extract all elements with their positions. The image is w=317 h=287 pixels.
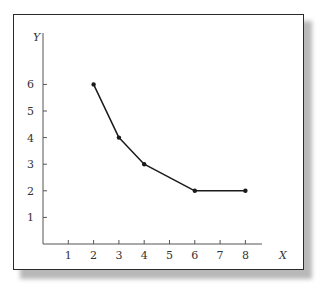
y-tick-label: 4 bbox=[27, 132, 34, 145]
x-tick-label: 6 bbox=[191, 249, 198, 262]
x-tick-label: 4 bbox=[141, 249, 148, 262]
x-tick-label: 3 bbox=[115, 249, 122, 262]
data-series bbox=[91, 82, 247, 193]
y-tick-label: 2 bbox=[27, 185, 34, 198]
y-tick-label: 3 bbox=[27, 158, 34, 171]
y-tick-label: 6 bbox=[27, 78, 34, 91]
data-point bbox=[243, 189, 247, 193]
data-point bbox=[91, 82, 95, 86]
axes bbox=[43, 33, 262, 244]
data-point bbox=[193, 189, 197, 193]
x-tick-label: 7 bbox=[217, 249, 224, 262]
x-tick-label: 1 bbox=[65, 249, 72, 262]
data-point bbox=[117, 135, 121, 139]
x-tick-label: 5 bbox=[166, 249, 173, 262]
x-ticks: 12345678 bbox=[65, 240, 249, 262]
y-tick-label: 5 bbox=[27, 105, 34, 118]
y-axis-label: Y bbox=[33, 31, 42, 44]
data-point bbox=[142, 162, 146, 166]
x-axis-label: X bbox=[278, 249, 288, 262]
x-tick-label: 8 bbox=[242, 249, 249, 262]
y-tick-label: 1 bbox=[27, 211, 34, 224]
line-chart: 12345678 123456 Y X bbox=[0, 0, 317, 287]
series-line bbox=[94, 84, 246, 190]
y-ticks: 123456 bbox=[27, 78, 47, 224]
x-tick-label: 2 bbox=[90, 249, 97, 262]
